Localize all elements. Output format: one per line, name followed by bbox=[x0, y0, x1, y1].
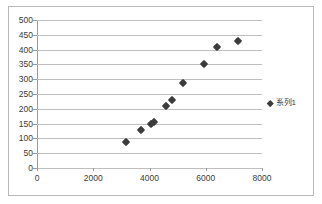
gridline bbox=[37, 79, 262, 80]
y-axis-tick-label: 250 bbox=[19, 90, 33, 99]
gridline bbox=[37, 35, 262, 36]
y-axis-tick-label: 450 bbox=[19, 31, 33, 40]
x-axis-tick-mark bbox=[150, 168, 151, 171]
legend-entry-label: 系列1 bbox=[276, 99, 296, 107]
gridline bbox=[37, 64, 262, 65]
data-point[interactable] bbox=[168, 96, 176, 104]
x-axis-tick-mark bbox=[262, 168, 263, 171]
data-point[interactable] bbox=[234, 37, 242, 45]
x-axis-tick-labels: 02000400060008000 bbox=[37, 174, 262, 188]
y-axis-tick-mark bbox=[33, 153, 37, 154]
data-point[interactable] bbox=[137, 126, 145, 134]
x-axis-tick-label: 4000 bbox=[140, 174, 159, 183]
chart-legend[interactable]: 系列1 bbox=[268, 99, 296, 107]
data-point[interactable] bbox=[200, 60, 208, 68]
x-axis-tick-mark bbox=[206, 168, 207, 171]
y-axis-tick-mark bbox=[33, 35, 37, 36]
x-axis-tick-label: 6000 bbox=[196, 174, 215, 183]
y-axis-tick-mark bbox=[33, 124, 37, 125]
legend-diamond-icon bbox=[267, 100, 273, 106]
gridline bbox=[37, 94, 262, 95]
y-axis-tick-label: 500 bbox=[19, 16, 33, 25]
y-axis-tick-mark bbox=[33, 109, 37, 110]
y-axis-tick-label: 350 bbox=[19, 60, 33, 69]
gridline bbox=[37, 153, 262, 154]
y-axis-tick-label: 150 bbox=[19, 119, 33, 128]
y-axis-tick-labels: 050100150200250300350400450500 bbox=[0, 20, 33, 168]
x-axis-tick-mark bbox=[93, 168, 94, 171]
x-axis-tick-mark bbox=[37, 168, 38, 171]
x-axis-tick-label: 2000 bbox=[84, 174, 103, 183]
y-axis-tick-label: 100 bbox=[19, 134, 33, 143]
gridline bbox=[37, 50, 262, 51]
y-axis-tick-mark bbox=[33, 50, 37, 51]
y-axis-tick-mark bbox=[33, 20, 37, 21]
y-axis-tick-mark bbox=[33, 138, 37, 139]
y-axis-tick-label: 400 bbox=[19, 45, 33, 54]
y-axis-tick-label: 300 bbox=[19, 75, 33, 84]
gridline bbox=[37, 109, 262, 110]
plot-area[interactable] bbox=[37, 20, 262, 168]
gridline bbox=[37, 138, 262, 139]
y-axis-tick-label: 50 bbox=[24, 149, 33, 158]
x-axis-tick-label: 8000 bbox=[253, 174, 272, 183]
y-axis-tick-mark bbox=[33, 94, 37, 95]
x-axis-tick-label: 0 bbox=[35, 174, 40, 183]
gridline bbox=[37, 20, 262, 21]
scatter-chart[interactable]: 050100150200250300350400450500 020004000… bbox=[0, 0, 322, 204]
y-axis-tick-label: 200 bbox=[19, 105, 33, 114]
y-axis-tick-mark bbox=[33, 79, 37, 80]
y-axis-tick-mark bbox=[33, 64, 37, 65]
